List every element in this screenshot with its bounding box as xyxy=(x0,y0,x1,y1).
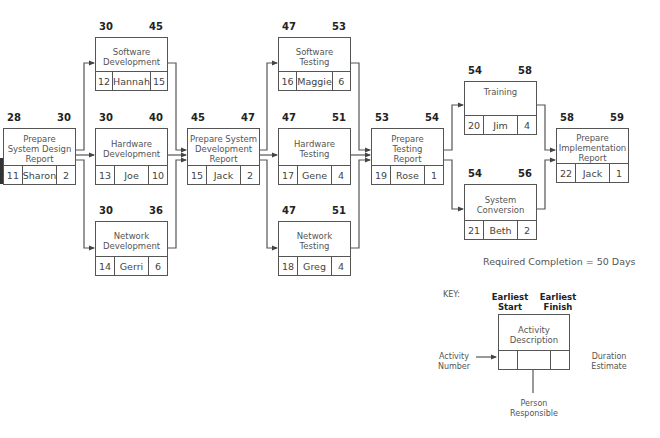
earliest-start: 54 xyxy=(468,65,482,76)
activity-number: 21 xyxy=(465,221,484,239)
network-diagram: 2830PrepareSystem DesignReport11Sharon23… xyxy=(0,0,660,438)
key-earliest-finish: Earliest Finish xyxy=(535,292,581,312)
activity-number: 12 xyxy=(96,72,113,90)
person-responsible: Beth xyxy=(484,221,518,239)
person-responsible: Rose xyxy=(391,166,425,184)
duration-estimate: 2 xyxy=(241,166,259,184)
activity-box: SystemConversion21Beth2 xyxy=(464,184,537,240)
activity-box: Prepare SystemDevelopmentReport15Jack2 xyxy=(187,128,260,185)
earliest-finish: 56 xyxy=(518,168,532,179)
key-earliest-start: Earliest Start xyxy=(488,292,532,312)
earliest-start: 45 xyxy=(191,112,205,123)
duration-estimate: 4 xyxy=(332,166,350,184)
earliest-start: 30 xyxy=(99,21,113,32)
activity-description: NetworkDevelopment xyxy=(96,222,167,258)
required-completion-note: Required Completion = 50 Days xyxy=(483,256,636,267)
person-responsible: Hannah xyxy=(113,72,151,90)
activity-box: PrepareImplementationReport22Jack1 xyxy=(556,128,629,183)
activity-description: PrepareTestingReport xyxy=(372,129,443,167)
activity-number: 18 xyxy=(279,257,298,275)
earliest-start: 53 xyxy=(375,112,389,123)
activity-box: Training20Jim4 xyxy=(464,81,537,135)
activity-description: Training xyxy=(465,82,536,117)
activity-description: HardwareDevelopment xyxy=(96,129,167,167)
duration-estimate: 4 xyxy=(332,257,350,275)
duration-estimate: 15 xyxy=(151,72,167,90)
activity-box: PrepareSystem DesignReport11Sharon2 xyxy=(3,128,76,185)
duration-estimate: 2 xyxy=(57,166,75,184)
person-responsible: Greg xyxy=(298,257,332,275)
key-node: Activity Description xyxy=(498,314,570,370)
person-responsible: Jack xyxy=(576,164,610,182)
duration-estimate: 1 xyxy=(610,164,628,182)
activity-box: NetworkDevelopment14Gerri6 xyxy=(95,221,168,276)
earliest-finish: 45 xyxy=(149,21,163,32)
activity-description: NetworkTesting xyxy=(279,222,350,258)
activity-box: SoftwareTesting16Maggie6 xyxy=(278,37,351,91)
activity-number: 16 xyxy=(279,72,297,90)
activity-number: 20 xyxy=(465,116,484,134)
key-person-responsible: Person Responsible xyxy=(508,399,560,419)
earliest-start: 30 xyxy=(99,112,113,123)
earliest-start: 47 xyxy=(282,205,296,216)
activity-number: 15 xyxy=(188,166,207,184)
activity-description: HardwareTesting xyxy=(279,129,350,167)
earliest-start: 47 xyxy=(282,21,296,32)
earliest-finish: 58 xyxy=(518,65,532,76)
earliest-finish: 30 xyxy=(57,112,71,123)
activity-number: 11 xyxy=(4,166,23,184)
earliest-finish: 40 xyxy=(149,112,163,123)
earliest-start: 54 xyxy=(468,168,482,179)
duration-estimate: 4 xyxy=(518,116,536,134)
activity-number: 13 xyxy=(96,166,115,184)
activity-number: 14 xyxy=(96,257,115,275)
activity-number: 17 xyxy=(279,166,298,184)
duration-estimate: 10 xyxy=(149,166,167,184)
earliest-finish: 51 xyxy=(332,205,346,216)
key-activity-number: Activity Number xyxy=(433,352,475,372)
person-responsible: Joe xyxy=(115,166,149,184)
person-responsible: Jack xyxy=(207,166,241,184)
person-responsible: Sharon xyxy=(23,166,57,184)
person-responsible: Gerri xyxy=(115,257,149,275)
person-responsible: Maggie xyxy=(297,72,333,90)
activity-description: SystemConversion xyxy=(465,185,536,222)
earliest-start: 28 xyxy=(7,112,21,123)
key-duration-estimate: Duration Estimate xyxy=(587,352,631,372)
activity-description: PrepareImplementationReport xyxy=(557,129,628,165)
activity-box: PrepareTestingReport19Rose1 xyxy=(371,128,444,185)
activity-description: Prepare SystemDevelopmentReport xyxy=(188,129,259,167)
earliest-finish: 51 xyxy=(332,112,346,123)
duration-estimate: 6 xyxy=(333,72,350,90)
activity-number: 19 xyxy=(372,166,391,184)
person-responsible: Jim xyxy=(484,116,518,134)
earliest-finish: 54 xyxy=(425,112,439,123)
activity-box: NetworkTesting18Greg4 xyxy=(278,221,351,276)
earliest-start: 58 xyxy=(560,112,574,123)
key-title: KEY: xyxy=(443,290,460,299)
activity-box: SoftwareDevelopment12Hannah15 xyxy=(95,37,168,91)
duration-estimate: 6 xyxy=(149,257,167,275)
person-responsible: Gene xyxy=(298,166,332,184)
earliest-finish: 47 xyxy=(241,112,255,123)
activity-description: SoftwareDevelopment xyxy=(96,38,167,73)
activity-description: SoftwareTesting xyxy=(279,38,350,73)
earliest-start: 30 xyxy=(99,205,113,216)
duration-estimate: 2 xyxy=(518,221,536,239)
earliest-finish: 53 xyxy=(332,21,346,32)
activity-description: PrepareSystem DesignReport xyxy=(4,129,75,167)
activity-number: 22 xyxy=(557,164,576,182)
activity-box: HardwareDevelopment13Joe10 xyxy=(95,128,168,185)
earliest-finish: 36 xyxy=(149,205,163,216)
activity-box: HardwareTesting17Gene4 xyxy=(278,128,351,185)
earliest-finish: 59 xyxy=(610,112,624,123)
duration-estimate: 1 xyxy=(425,166,443,184)
earliest-start: 47 xyxy=(282,112,296,123)
